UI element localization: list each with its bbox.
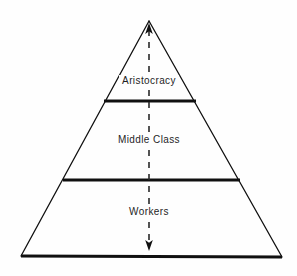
pyramid-base-line xyxy=(21,256,282,257)
pyramid-diagram: Aristocracy Middle Class Workers xyxy=(0,0,297,276)
tier-label-workers: Workers xyxy=(126,206,172,218)
tier-label-aristocracy: Aristocracy xyxy=(119,75,179,87)
mobility-axis-arrowhead-down xyxy=(145,240,153,251)
tier-label-middle-class: Middle Class xyxy=(115,134,183,146)
